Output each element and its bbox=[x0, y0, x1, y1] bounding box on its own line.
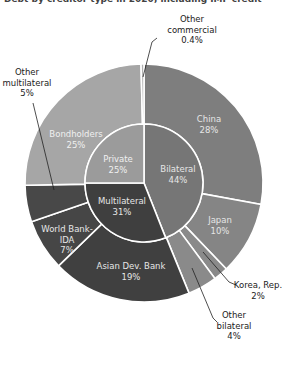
label-asian-dev-bank: Asian Dev. Bank 19% bbox=[97, 261, 166, 282]
label-multilateral: Multilateral 31% bbox=[98, 196, 146, 217]
label-world-bank-ida: World Bank- IDA 7% bbox=[41, 224, 92, 256]
label-china: China 28% bbox=[197, 114, 221, 135]
label-other-bilateral: Other bilateral 4% bbox=[217, 310, 252, 342]
label-japan: Japan 10% bbox=[208, 215, 232, 236]
label-bondholders: Bondholders 25% bbox=[49, 129, 102, 150]
label-other-multilateral: Other multilateral 5% bbox=[3, 67, 52, 99]
label-korea: Korea, Rep. 2% bbox=[234, 280, 282, 301]
label-private: Private 25% bbox=[103, 154, 133, 175]
label-other-commercial: Other commercial 0.4% bbox=[167, 14, 217, 46]
label-bilateral: Bilateral 44% bbox=[160, 164, 195, 185]
